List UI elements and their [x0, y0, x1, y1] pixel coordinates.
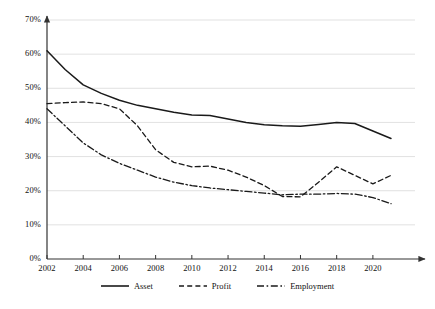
legend-item-employment[interactable]: Employment [257, 281, 334, 291]
legend-label: Employment [290, 281, 334, 291]
y-axis-tick-label: 60% [2, 48, 41, 58]
legend-swatch-dashed-icon [179, 281, 207, 291]
series-line-asset [47, 51, 391, 139]
x-axis-tick-label: 2008 [136, 263, 176, 273]
legend-item-profit[interactable]: Profit [179, 281, 231, 291]
x-axis-tick-label: 2016 [280, 263, 320, 273]
legend-label: Profit [212, 281, 231, 291]
gridlines [47, 20, 415, 259]
y-axis-tick-label: 10% [2, 219, 41, 229]
x-axis-tick-label: 2018 [317, 263, 357, 273]
y-axis-tick-label: 30% [2, 151, 41, 161]
line-chart: AssetProfitEmployment 0%10%20%30%40%50%6… [0, 0, 435, 309]
x-axis-tick-label: 2006 [99, 263, 139, 273]
x-axis-tick-label: 2010 [172, 263, 212, 273]
x-axis-tick-label: 2012 [208, 263, 248, 273]
y-axis-tick-label: 50% [2, 82, 41, 92]
x-axis-tick-label: 2014 [244, 263, 284, 273]
y-axis-tick-label: 40% [2, 116, 41, 126]
x-axis-tick-label: 2004 [63, 263, 103, 273]
legend-item-asset[interactable]: Asset [101, 281, 153, 291]
y-axis-tick-label: 70% [2, 14, 41, 24]
y-axis-tick-label: 0% [2, 253, 41, 263]
legend-label: Asset [134, 281, 153, 291]
x-axis-tick-label: 2020 [353, 263, 393, 273]
chart-legend: AssetProfitEmployment [0, 281, 435, 291]
series-line-profit [47, 102, 391, 197]
legend-swatch-solid-icon [101, 281, 129, 291]
y-axis-tick-label: 20% [2, 185, 41, 195]
x-axis-tick-label: 2002 [27, 263, 67, 273]
legend-swatch-dashdot-icon [257, 281, 285, 291]
